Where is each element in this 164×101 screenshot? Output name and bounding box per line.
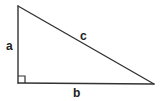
right-triangle-diagram: a b c xyxy=(0,0,164,101)
label-a: a xyxy=(6,39,13,53)
label-c: c xyxy=(80,29,87,43)
side-b-line xyxy=(18,83,154,84)
right-angle-marker-icon xyxy=(18,76,25,83)
label-b: b xyxy=(73,86,80,100)
side-c-hypotenuse-line xyxy=(18,6,154,84)
